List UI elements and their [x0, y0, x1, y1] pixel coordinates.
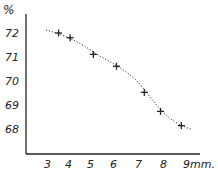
x-tick-6: 6: [110, 158, 117, 170]
x-tick-9mm: 9mm.: [183, 158, 215, 170]
data-point-plus-icon: [90, 51, 97, 58]
x-tick-5: 5: [87, 158, 94, 170]
x-tick-labels: 3 4 5 6 7 8 9mm.: [44, 158, 215, 170]
data-point-plus-icon: [157, 108, 164, 115]
data-point-plus-icon: [67, 34, 74, 41]
data-point-plus-icon: [113, 63, 120, 70]
y-tick-71: 71: [5, 51, 19, 64]
chart: % 72 71 70 69 68 3 4 5 6 7 8 9mm.: [0, 0, 218, 170]
data-point-plus-icon: [178, 122, 185, 129]
y-tick-labels: 72 71 70 69 68: [5, 27, 19, 136]
y-axis-unit: %: [3, 3, 14, 17]
trend-curve: [46, 30, 191, 129]
x-tick-7: 7: [135, 158, 142, 170]
y-tick-69: 69: [5, 99, 19, 112]
x-tick-8: 8: [160, 158, 167, 170]
x-tick-3: 3: [44, 158, 51, 170]
y-tick-68: 68: [5, 123, 19, 136]
data-point-plus-icon: [55, 30, 62, 37]
data-points: [55, 30, 185, 130]
x-tick-4: 4: [65, 158, 72, 170]
y-tick-72: 72: [5, 27, 19, 40]
data-point-plus-icon: [141, 89, 148, 96]
y-tick-70: 70: [5, 75, 19, 88]
